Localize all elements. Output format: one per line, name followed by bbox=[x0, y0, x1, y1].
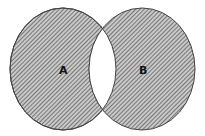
venn-diagram: A B bbox=[0, 0, 205, 136]
label-b: B bbox=[139, 64, 147, 77]
label-a: A bbox=[59, 64, 68, 77]
